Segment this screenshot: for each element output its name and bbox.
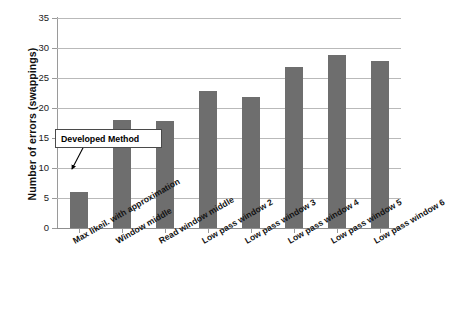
y-axis-tick-labels: 05101520253035 <box>15 0 49 317</box>
y-tick-mark-35 <box>52 18 57 19</box>
callout-label: Developed Method <box>56 134 139 144</box>
bar[interactable] <box>328 55 346 228</box>
y-tick-label-35: 35 <box>19 13 49 23</box>
y-tick-mark-20 <box>52 108 57 109</box>
y-tick-label-30: 30 <box>19 43 49 53</box>
y-tick-label-25: 25 <box>19 73 49 83</box>
y-tick-label-5: 5 <box>19 193 49 203</box>
y-tick-mark-5 <box>52 198 57 199</box>
y-tick-label-15: 15 <box>19 133 49 143</box>
developed-method-callout[interactable]: Developed Method <box>55 129 162 148</box>
y-tick-mark-25 <box>52 78 57 79</box>
y-tick-mark-0 <box>52 228 57 229</box>
bar[interactable] <box>70 192 88 228</box>
bar-chart: Number of errors (swappings) 05101520253… <box>0 0 455 317</box>
y-tick-label-0: 0 <box>19 223 49 233</box>
y-tick-mark-30 <box>52 48 57 49</box>
y-tick-label-20: 20 <box>19 103 49 113</box>
y-tick-label-10: 10 <box>19 163 49 173</box>
